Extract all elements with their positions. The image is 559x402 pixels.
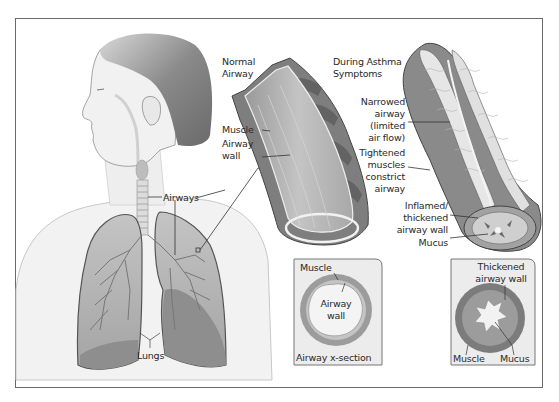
label-xsection-caption: Airway x-section bbox=[296, 352, 371, 364]
label-xsection-airway-wall-1: Airway bbox=[316, 298, 356, 310]
normal-airway-heading-2: Airway bbox=[222, 68, 253, 80]
label-airways: Airways bbox=[163, 192, 199, 204]
asthma-airway-heading-2: Symptoms bbox=[333, 68, 382, 80]
label-asthma-xsection-muscle: Muscle bbox=[453, 353, 485, 365]
label-tightened-3: constrict bbox=[345, 171, 405, 183]
label-inflamed-3: airway wall bbox=[378, 224, 448, 236]
label-tightened-1: Tightened bbox=[345, 147, 405, 159]
normal-airway-heading-1: Normal bbox=[222, 56, 255, 68]
label-narrowed-2: airway bbox=[345, 108, 405, 120]
label-lungs: Lungs bbox=[137, 350, 164, 362]
label-normal-airway-wall-2: wall bbox=[222, 150, 240, 162]
label-narrowed-1: Narrowed bbox=[345, 96, 405, 108]
label-xsection-muscle: Muscle bbox=[300, 262, 332, 274]
asthma-airway-heading-1: During Asthma bbox=[333, 56, 402, 68]
label-narrowed-3: (limited bbox=[345, 120, 405, 132]
label-mucus: Mucus bbox=[378, 237, 448, 249]
label-tightened-4: airway bbox=[345, 183, 405, 195]
label-thickened-1: Thickened bbox=[468, 261, 534, 273]
person-illustration bbox=[16, 34, 274, 380]
label-xsection-airway-wall-2: wall bbox=[316, 310, 356, 322]
label-inflamed-2: thickened bbox=[378, 212, 448, 224]
label-asthma-xsection-mucus: Mucus bbox=[500, 353, 529, 365]
label-normal-airway-wall-1: Airway bbox=[222, 138, 253, 150]
label-normal-muscle: Muscle bbox=[222, 124, 254, 136]
label-inflamed-1: Inflamed/ bbox=[378, 200, 448, 212]
label-narrowed-4: air flow) bbox=[345, 132, 405, 144]
illustration bbox=[0, 0, 559, 402]
label-thickened-2: airway wall bbox=[468, 273, 534, 285]
label-tightened-2: muscles bbox=[345, 159, 405, 171]
